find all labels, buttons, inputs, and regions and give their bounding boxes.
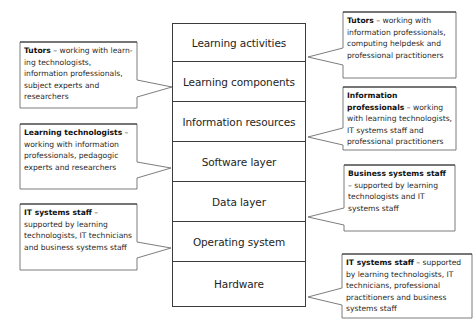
- layer-label: Hardware: [214, 278, 264, 290]
- callout-separator: –: [92, 208, 98, 217]
- callout-role: Business systems staff: [348, 169, 446, 178]
- layer-label: Learning components: [183, 76, 295, 88]
- layer-hardware: Hardware: [173, 261, 305, 306]
- layer-label: Operating system: [193, 236, 285, 248]
- layer-information-resources: Information resources: [173, 101, 305, 141]
- callout-description: supported by learning technologists, IT …: [24, 220, 132, 252]
- callout-description: working with information professionals, …: [24, 140, 119, 172]
- callout-role: Tutors: [347, 16, 374, 25]
- layer-stack: Learning activities Learning components …: [172, 23, 306, 307]
- callout-right-information-professionals: Information professionals – working with…: [343, 87, 456, 148]
- callout-separator: –: [122, 128, 128, 137]
- layer-learning-components: Learning components: [173, 61, 305, 101]
- callout-left-learning-technologists: Learning technologists – working with in…: [20, 124, 137, 173]
- callout-left-tutors: Tutors – working with learn-ing technolo…: [20, 42, 137, 103]
- callout-role: Information professionals: [347, 91, 404, 112]
- layer-label: Information resources: [183, 116, 296, 128]
- layer-label: Learning activities: [192, 37, 286, 49]
- callout-role: IT systems staff: [346, 258, 414, 267]
- layer-label: Software layer: [202, 156, 277, 168]
- callout-right-business-systems-staff: Business systems staff – supported by le…: [344, 165, 455, 214]
- callout-role: Tutors: [24, 46, 51, 55]
- callout-right-tutors: Tutors – working with information profes…: [343, 12, 456, 61]
- callout-separator: –: [404, 103, 413, 112]
- callout-left-it-systems-staff: IT systems staff – supported by learning…: [20, 204, 137, 253]
- layer-software: Software layer: [173, 141, 305, 181]
- callout-separator: –: [51, 46, 60, 55]
- layer-learning-activities: Learning activities: [173, 24, 305, 61]
- callout-role: IT systems staff: [24, 208, 92, 217]
- callout-separator: –: [414, 258, 423, 267]
- layer-label: Data layer: [212, 196, 266, 208]
- callout-separator: –: [374, 16, 383, 25]
- layer-operating-system: Operating system: [173, 221, 305, 261]
- layered-roles-diagram: Learning activities Learning components …: [0, 0, 476, 333]
- callout-role: Learning technologists: [24, 128, 122, 137]
- callout-right-it-systems-staff: IT systems staff – supported by learning…: [342, 254, 472, 315]
- callout-description: supported by learning technologists and …: [348, 181, 438, 213]
- layer-data: Data layer: [173, 181, 305, 221]
